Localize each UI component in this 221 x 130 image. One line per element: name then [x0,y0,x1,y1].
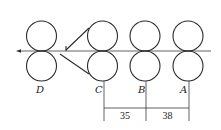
dimension-c-b: 35 [120,110,130,121]
rolling-mill-diagram: D C B A 35 38 [0,0,221,130]
stand-label-d: D [35,84,44,95]
dimension-b-a: 38 [163,110,173,121]
dimension-lines [104,81,189,121]
arrow-left-icon [16,49,21,52]
stand-label-a: A [179,84,187,95]
stand-label-b: B [137,84,145,95]
stand-label-c: C [95,84,103,95]
